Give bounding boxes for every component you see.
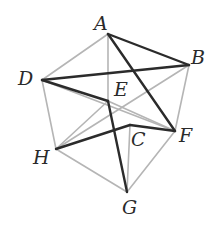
- vertex-label-A: A: [94, 14, 108, 33]
- vertex-label-H: H: [33, 148, 50, 167]
- vertex-label-B: B: [191, 48, 205, 67]
- dark-edge-HC: [56, 125, 130, 149]
- dark-edge-DE: [42, 80, 108, 101]
- vertex-label-D: D: [18, 69, 33, 88]
- vertex-label-G: G: [122, 198, 137, 217]
- vertex-label-C: C: [131, 130, 146, 149]
- cube-figure: [0, 0, 213, 231]
- light-edge-DH: [42, 80, 56, 149]
- cube-diagram: ABDECFHG: [0, 0, 213, 231]
- vertex-label-E: E: [114, 80, 128, 99]
- light-edge-HG: [56, 149, 127, 192]
- light-edge-CG: [127, 125, 130, 192]
- vertex-label-F: F: [179, 126, 192, 145]
- light-edge-BF: [175, 65, 189, 131]
- dark-edge-EG: [108, 101, 127, 192]
